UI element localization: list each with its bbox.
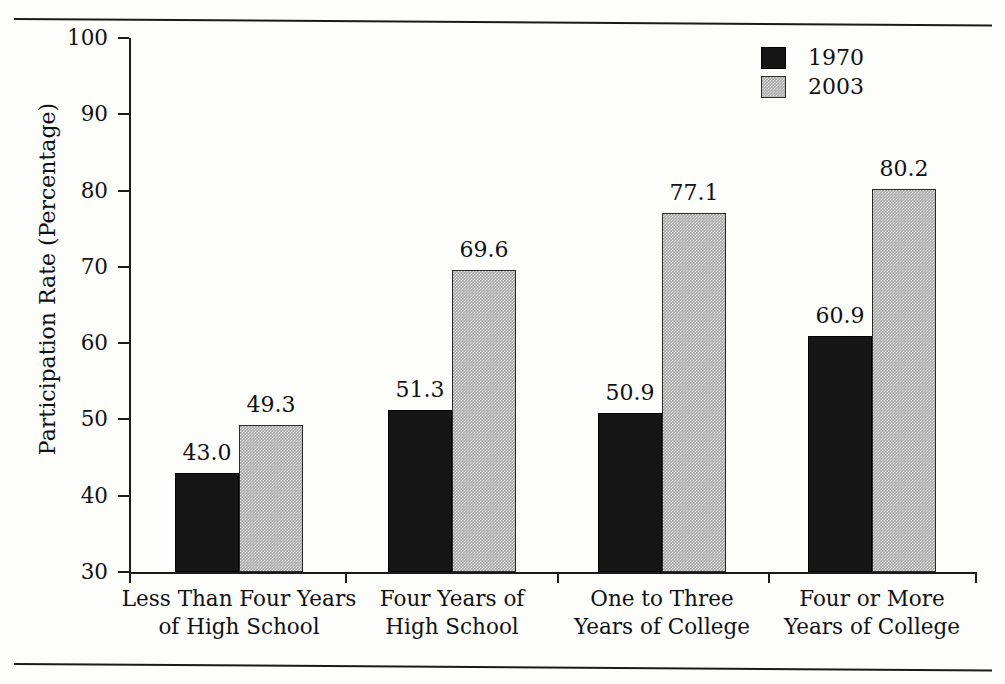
x-axis-tick [975, 572, 977, 583]
bar-value-label: 60.9 [796, 305, 884, 327]
bar-1970-2[interactable] [388, 410, 452, 572]
y-axis-tick-label: 80 [46, 180, 108, 202]
category-label-line: Years of College [742, 613, 1002, 641]
x-axis-tick [345, 572, 347, 583]
x-axis-tick [129, 572, 131, 583]
y-axis-tick [118, 418, 129, 420]
y-axis-tick-label: 90 [46, 103, 108, 125]
bar-value-label: 51.3 [376, 379, 464, 401]
y-axis-tick-label: 30 [46, 561, 108, 583]
y-axis-tick [118, 113, 129, 115]
y-axis-tick [118, 190, 129, 192]
bar-value-label: 50.9 [586, 382, 674, 404]
y-axis-tick-label: 40 [46, 485, 108, 507]
bar-2003-2[interactable] [452, 270, 516, 572]
bar-value-label: 69.6 [440, 239, 528, 261]
x-axis-tick [768, 572, 770, 583]
y-axis-tick-label: 50 [46, 408, 108, 430]
bar-value-label: 43.0 [163, 442, 251, 464]
legend-label: 2003 [808, 76, 864, 98]
legend-label: 1970 [808, 47, 864, 69]
bar-2003-4[interactable] [872, 189, 936, 572]
category-label-line: Four or More [742, 585, 1002, 613]
bar-1970-1[interactable] [175, 473, 239, 572]
bar-value-label: 77.1 [650, 182, 738, 204]
black-square-swatch [761, 47, 786, 69]
y-axis-tick-label: 70 [46, 256, 108, 278]
legend-item-1970[interactable]: 1970 [761, 43, 864, 72]
chart-figure: Participation Rate (Percentage) 30405060… [0, 0, 1005, 684]
x-axis-tick [557, 572, 559, 583]
bar-value-label: 80.2 [860, 158, 948, 180]
bar-2003-1[interactable] [239, 425, 303, 572]
bar-1970-3[interactable] [598, 413, 662, 572]
y-axis-tick [118, 37, 129, 39]
top-horizontal-rule [14, 18, 992, 26]
y-axis-tick [118, 342, 129, 344]
y-axis-tick [118, 571, 129, 573]
bar-2003-3[interactable] [662, 213, 726, 572]
y-axis-tick-label: 60 [46, 332, 108, 354]
y-axis-tick-label: 100 [46, 27, 108, 49]
chart-legend: 19702003 [761, 43, 864, 101]
y-axis-line [129, 38, 131, 573]
y-axis-title: Participation Rate (Percentage) [37, 19, 59, 539]
bar-1970-4[interactable] [808, 336, 872, 572]
gray-square-swatch [761, 76, 786, 98]
bottom-horizontal-rule [14, 663, 992, 671]
x-axis-line [129, 572, 977, 574]
y-axis-tick [118, 266, 129, 268]
y-axis-tick [118, 495, 129, 497]
x-axis-category-label: Four or MoreYears of College [742, 585, 1002, 642]
bar-value-label: 49.3 [227, 394, 315, 416]
legend-item-2003[interactable]: 2003 [761, 72, 864, 101]
